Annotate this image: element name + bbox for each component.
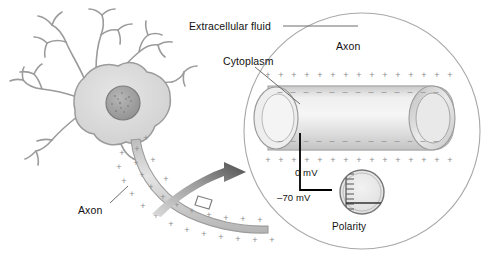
svg-text:+: + xyxy=(395,70,400,80)
svg-text:–: – xyxy=(303,87,308,97)
svg-text:+: + xyxy=(395,155,400,165)
svg-text:+: + xyxy=(434,155,439,165)
svg-text:+: + xyxy=(206,210,211,220)
svg-text:+: + xyxy=(133,158,138,168)
svg-text:–: – xyxy=(329,87,334,97)
svg-text:+: + xyxy=(421,70,426,80)
svg-text:–: – xyxy=(433,87,438,97)
svg-text:+: + xyxy=(201,229,206,239)
svg-text:–: – xyxy=(355,136,360,146)
svg-text:–: – xyxy=(329,136,334,146)
svg-text:+: + xyxy=(252,235,257,245)
svg-text:–: – xyxy=(342,136,347,146)
svg-text:+: + xyxy=(343,155,348,165)
label-zero-mv: 0 mV xyxy=(295,168,318,178)
svg-text:+: + xyxy=(143,133,148,143)
svg-text:+: + xyxy=(223,213,228,223)
svg-text:+: + xyxy=(116,162,121,172)
svg-text:+: + xyxy=(408,155,413,165)
svg-text:+: + xyxy=(139,170,144,180)
neuron-illustration: ++ ++ ++ ++ ++ ++ + ++ ++ ++ ++ ++ + ++ … xyxy=(10,9,275,245)
svg-text:+: + xyxy=(150,155,155,165)
magnify-arrow xyxy=(152,162,246,217)
svg-text:+: + xyxy=(382,70,387,80)
inset-magnifier: +++ +++ +++ +++ +++ ––– ––– ––– ––– – ––… xyxy=(244,13,480,249)
svg-text:+: + xyxy=(408,70,413,80)
svg-text:+: + xyxy=(235,234,240,244)
svg-text:+: + xyxy=(134,144,139,154)
svg-text:–: – xyxy=(420,87,425,97)
svg-text:–: – xyxy=(420,136,425,146)
svg-text:+: + xyxy=(278,70,283,80)
svg-text:+: + xyxy=(257,215,262,225)
svg-text:+: + xyxy=(218,232,223,242)
polarity-meter xyxy=(340,170,384,214)
svg-text:–: – xyxy=(381,87,386,97)
axon-left-opening-inner xyxy=(262,94,294,142)
svg-text:+: + xyxy=(317,155,322,165)
svg-text:+: + xyxy=(304,155,309,165)
svg-text:+: + xyxy=(163,174,168,184)
label-cytoplasm: Cytoplasm xyxy=(223,56,274,67)
nucleus xyxy=(106,86,140,120)
svg-text:+: + xyxy=(434,70,439,80)
svg-text:–: – xyxy=(290,87,295,97)
svg-text:+: + xyxy=(265,155,270,165)
svg-text:–: – xyxy=(342,87,347,97)
figure-canvas: ++ ++ ++ ++ ++ ++ + ++ ++ ++ ++ ++ + ++ … xyxy=(0,0,482,261)
svg-text:+: + xyxy=(240,214,245,224)
svg-text:–: – xyxy=(381,136,386,146)
label-axon-inset: Axon xyxy=(336,41,360,52)
svg-text:+: + xyxy=(330,70,335,80)
label-minus-seventy-mv: –70 mV xyxy=(277,193,310,203)
svg-text:+: + xyxy=(356,155,361,165)
svg-text:–: – xyxy=(407,136,412,146)
svg-text:–: – xyxy=(394,136,399,146)
svg-text:+: + xyxy=(421,155,426,165)
svg-text:+: + xyxy=(184,225,189,235)
svg-text:+: + xyxy=(343,70,348,80)
svg-text:–: – xyxy=(303,136,308,146)
svg-text:–: – xyxy=(368,136,373,146)
svg-text:+: + xyxy=(447,155,452,165)
svg-text:+: + xyxy=(330,155,335,165)
svg-text:+: + xyxy=(356,70,361,80)
leader-axon-neuron xyxy=(110,186,128,203)
svg-text:–: – xyxy=(316,136,321,146)
svg-text:+: + xyxy=(119,148,124,158)
svg-text:–: – xyxy=(368,87,373,97)
svg-text:–: – xyxy=(277,136,282,146)
svg-text:+: + xyxy=(317,70,322,80)
svg-text:+: + xyxy=(189,206,194,216)
svg-text:+: + xyxy=(269,235,274,245)
svg-text:–: – xyxy=(355,87,360,97)
charges-outside-top: +++ +++ +++ +++ +++ xyxy=(265,70,452,80)
svg-text:–: – xyxy=(433,136,438,146)
svg-text:–: – xyxy=(394,87,399,97)
svg-text:–: – xyxy=(316,87,321,97)
svg-text:+: + xyxy=(369,70,374,80)
svg-text:+: + xyxy=(148,182,153,192)
svg-text:+: + xyxy=(160,192,165,202)
label-axon-neuron: Axon xyxy=(78,205,102,216)
svg-text:+: + xyxy=(265,70,270,80)
svg-text:+: + xyxy=(447,70,452,80)
label-polarity: Polarity xyxy=(332,222,366,232)
charges-outside-bottom: +++ +++ +++ +++ +++ xyxy=(265,155,452,165)
svg-text:+: + xyxy=(140,201,145,211)
svg-text:+: + xyxy=(304,70,309,80)
zoom-origin-bracket xyxy=(195,196,212,209)
svg-text:+: + xyxy=(291,155,296,165)
label-extracellular-fluid: Extracellular fluid xyxy=(189,21,271,32)
svg-text:+: + xyxy=(121,176,126,186)
svg-text:+: + xyxy=(291,70,296,80)
svg-text:–: – xyxy=(290,136,295,146)
svg-text:+: + xyxy=(278,155,283,165)
svg-text:+: + xyxy=(369,155,374,165)
svg-text:–: – xyxy=(407,87,412,97)
svg-text:+: + xyxy=(129,189,134,199)
diagram-svg: ++ ++ ++ ++ ++ ++ + ++ ++ ++ ++ ++ + ++ … xyxy=(0,0,482,261)
svg-text:+: + xyxy=(168,219,173,229)
svg-text:+: + xyxy=(382,155,387,165)
